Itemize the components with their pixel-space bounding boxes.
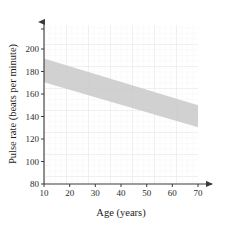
y-axis-title: Pulse rate (beats per minute) <box>7 43 19 164</box>
y-tick-label: 160 <box>26 89 40 99</box>
x-axis-title: Age (years) <box>96 207 146 219</box>
x-tick-label: 70 <box>194 188 204 198</box>
x-tick-label: 30 <box>91 188 101 198</box>
y-tick-label: 120 <box>26 134 40 144</box>
x-tick-label: 40 <box>117 188 127 198</box>
y-tick-label: 100 <box>26 157 40 167</box>
y-axis-tick-labels: 80 100 120 140 160 180 200 <box>26 44 40 189</box>
x-axis-tick-labels: 10 20 30 40 50 60 70 <box>40 188 204 198</box>
x-tick-label: 60 <box>168 188 178 198</box>
y-tick-label: 80 <box>30 179 40 189</box>
chart-canvas: 80 100 120 140 160 180 200 10 20 30 40 5… <box>0 0 225 228</box>
x-tick-label: 20 <box>65 188 75 198</box>
y-tick-label: 180 <box>26 67 40 77</box>
x-tick-label: 50 <box>142 188 152 198</box>
y-tick-label: 140 <box>26 112 40 122</box>
y-tick-label: 200 <box>26 44 40 54</box>
pulse-rate-chart-figure: 80 100 120 140 160 180 200 10 20 30 40 5… <box>0 0 225 228</box>
x-tick-label: 10 <box>40 188 50 198</box>
